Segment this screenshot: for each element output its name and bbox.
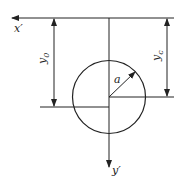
svg-text:y0: y0 <box>36 53 51 65</box>
circle-section-diagram: x′ y′ a y0 yc <box>0 0 184 186</box>
svg-text:yc: yc <box>150 50 165 62</box>
x-axis-label: x′ <box>14 22 23 35</box>
y0-label: y0 <box>36 53 51 65</box>
y-axis-label: y′ <box>111 164 121 177</box>
diagram-svg: x′ y′ a y0 yc <box>0 0 184 186</box>
radius-label: a <box>114 73 121 86</box>
radius-arrow <box>109 72 135 97</box>
yc-label: yc <box>150 50 165 62</box>
